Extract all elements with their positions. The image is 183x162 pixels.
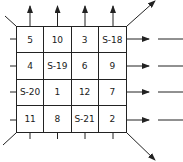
grid-cell: 9	[99, 53, 126, 79]
number-grid: 5 10 3 S-18 4 S-19 6 9 S-20 1 12 7 11 8 …	[16, 26, 127, 133]
right-arrows	[127, 39, 183, 120]
grid-cell: 8	[44, 106, 71, 132]
diagonal-arrow-bottom-right	[127, 133, 155, 160]
grid-cell: 10	[44, 27, 71, 53]
top-arrows	[30, 6, 113, 26]
bottom-ticks	[30, 133, 113, 139]
grid-cell: S-21	[72, 106, 99, 132]
grid-cell: 11	[17, 106, 44, 132]
grid-cell: 6	[72, 53, 99, 79]
grid-cell: S-18	[99, 27, 126, 53]
grid-cell: 2	[99, 106, 126, 132]
grid-cell: 7	[99, 80, 126, 106]
grid-cell: 3	[72, 27, 99, 53]
grid-cell: 4	[17, 53, 44, 79]
diagonal-line-bottom-left	[3, 133, 16, 145]
diagonal-arrow-top-right	[127, 1, 155, 26]
grid-cell: 1	[44, 80, 71, 106]
grid-cell: 5	[17, 27, 44, 53]
grid-diagram: 5 10 3 S-18 4 S-19 6 9 S-20 1 12 7 11 8 …	[0, 0, 183, 162]
grid-cell: S-20	[17, 80, 44, 106]
diagonal-line-top-left	[5, 16, 16, 26]
grid-cell: S-19	[44, 53, 71, 79]
grid-cell: 12	[72, 80, 99, 106]
